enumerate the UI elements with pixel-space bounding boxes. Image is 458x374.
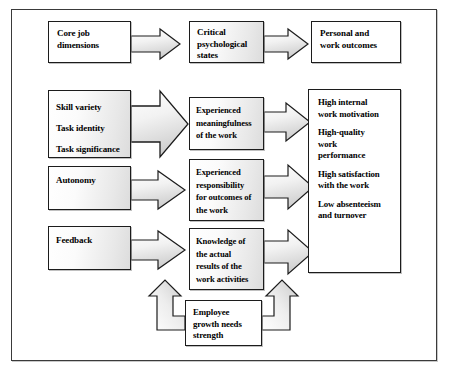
box-experienced-meaningfulness-label: Experienced meaningfulness of the work [196,104,251,142]
box-core-job-dimensions-label: Core job dimensions [57,28,99,51]
core-dimensions-items: Skill variety Task identity Task signifi… [56,97,120,160]
outcome-item: Low absenteeism [318,199,381,211]
box-experienced-meaningfulness: Experienced meaningfulness of the work [189,97,264,150]
box-critical-psychological-states: Critical psychological states [189,21,264,63]
outcomes-items: High internal work motivation High-quali… [318,97,381,222]
box-autonomy: Autonomy [48,166,131,210]
diagram-canvas: Core job dimensions Critical psychologic… [0,0,458,374]
box-employee-growth-needs-strength-label: Employee growth needs strength [193,307,242,342]
core-dimension-item: Skill variety [56,97,120,118]
box-employee-growth-needs-strength: Employee growth needs strength [185,300,262,346]
box-autonomy-label: Autonomy [56,175,96,187]
outcome-item: High internal [318,97,381,109]
box-experienced-responsibility: Experienced responsibility for outcomes … [189,159,264,221]
box-feedback: Feedback [48,226,131,270]
box-knowledge-of-results: Knowledge of the actual results of the w… [189,228,264,290]
core-dimension-item: Task identity [56,118,120,139]
box-personal-and-work-outcomes-label: Personal and work outcomes [320,28,377,51]
box-core-dimensions-list: Skill variety Task identity Task signifi… [48,90,131,158]
outcome-item: High-quality [318,127,381,139]
core-dimension-item: Task significance [56,139,120,160]
box-experienced-responsibility-label: Experienced responsibility for outcomes … [196,166,251,216]
box-personal-and-work-outcomes: Personal and work outcomes [311,21,401,63]
box-outcomes: High internal work motivation High-quali… [308,89,401,273]
outcome-item: High satisfaction [318,169,381,181]
box-core-job-dimensions: Core job dimensions [48,21,131,63]
box-critical-psychological-states-label: Critical psychological states [197,27,247,62]
box-knowledge-of-results-label: Knowledge of the actual results of the w… [196,235,248,285]
box-feedback-label: Feedback [56,235,92,247]
